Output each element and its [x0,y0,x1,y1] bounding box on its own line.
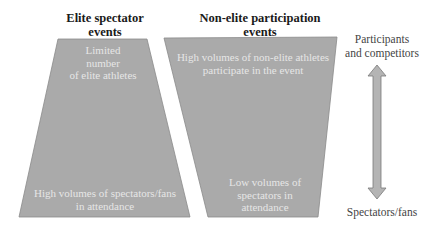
nonelite-heading-line1: Non-elite participation [180,11,340,25]
elite-bottom-line2: in attendance [25,200,185,213]
elite-athletes-text: Limited number of elite athletes [60,44,146,82]
spectators-label: Spectators/fans [336,205,428,219]
nonelite-top-line2: participate in the event [168,64,338,77]
elite-top-line1: Limited [60,44,146,57]
nonelite-events-heading: Non-elite participation events [180,11,340,39]
participants-label: Participants and competitors [336,32,428,60]
elite-heading-line1: Elite spectator [40,11,170,25]
elite-spectators-text: High volumes of spectators/fans in atten… [25,187,185,212]
nonelite-top-line1: High volumes of non-elite athletes [168,51,338,64]
elite-top-line2: number [60,57,146,70]
nonelite-athletes-text: High volumes of non-elite athletes parti… [168,51,338,76]
participants-label-line2: and competitors [336,46,428,60]
nonelite-bottom-line1: Low volumes of [218,176,312,189]
nonelite-bottom-line3: attendance [218,201,312,214]
elite-top-line3: of elite athletes [60,69,146,82]
elite-bottom-line1: High volumes of spectators/fans [25,187,185,200]
elite-heading-line2: events [40,25,170,39]
elite-events-heading: Elite spectator events [40,11,170,39]
spectators-label-text: Spectators/fans [336,205,428,219]
nonelite-heading-line2: events [180,25,340,39]
participants-label-line1: Participants [336,32,428,46]
double-arrow-icon [368,65,386,199]
spectator-participation-diagram: Elite spectator events Non-elite partici… [0,0,436,229]
nonelite-spectators-text: Low volumes of spectators in attendance [218,176,312,214]
nonelite-bottom-line2: spectators in [218,189,312,202]
